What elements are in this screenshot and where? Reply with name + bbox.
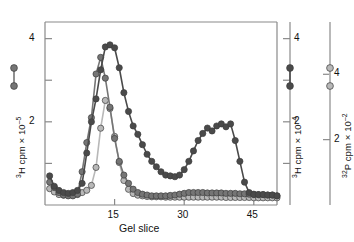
right-axis-title: 32P cpm × 10–2 bbox=[342, 113, 353, 178]
data-point bbox=[93, 96, 99, 102]
data-point bbox=[112, 45, 118, 51]
data-point bbox=[200, 130, 206, 136]
data-point bbox=[125, 180, 131, 186]
data-point bbox=[102, 97, 108, 103]
legend-marker-right bbox=[327, 65, 334, 90]
middle-axis-isotope: 3 bbox=[291, 174, 298, 178]
data-point bbox=[74, 187, 80, 193]
middle-axis-text: H cpm × 10 bbox=[292, 124, 303, 174]
data-point bbox=[130, 123, 136, 129]
legend-marker-left bbox=[11, 65, 18, 90]
data-point bbox=[195, 137, 201, 143]
data-point bbox=[232, 137, 238, 143]
legend-dot bbox=[11, 83, 18, 90]
data-point bbox=[121, 90, 127, 96]
data-point bbox=[125, 108, 131, 114]
data-point bbox=[228, 121, 234, 127]
data-point bbox=[116, 65, 122, 71]
middle-axis-tick-label: 2 bbox=[294, 115, 300, 126]
x-axis-tick-label: 30 bbox=[177, 209, 188, 220]
left-axis-exp: –5 bbox=[15, 117, 22, 125]
legend-marker-middle bbox=[287, 65, 294, 90]
data-point bbox=[93, 164, 99, 170]
left-axis-isotope: 3 bbox=[15, 174, 22, 178]
left-axis-tick-label: 4 bbox=[29, 32, 35, 43]
data-point bbox=[84, 187, 90, 193]
legend-dot bbox=[287, 65, 294, 72]
data-point bbox=[84, 150, 90, 156]
legend-dot bbox=[11, 65, 18, 72]
data-point bbox=[176, 172, 182, 178]
data-point bbox=[88, 182, 94, 188]
left-axis-text: H cpm × 10 bbox=[16, 124, 27, 174]
data-point bbox=[88, 119, 94, 125]
data-point bbox=[112, 135, 118, 141]
data-point bbox=[102, 75, 108, 81]
data-point bbox=[190, 148, 196, 154]
legend-dot bbox=[327, 83, 334, 90]
plot-frame bbox=[45, 22, 277, 205]
right-axis-exp: –2 bbox=[341, 113, 348, 121]
data-point bbox=[186, 158, 192, 164]
data-point bbox=[116, 158, 122, 164]
right-axis-tick-label: 2 bbox=[334, 133, 340, 144]
data-point bbox=[241, 179, 247, 185]
data-point bbox=[47, 173, 53, 179]
legend-dot bbox=[287, 83, 294, 90]
data-point bbox=[237, 158, 243, 164]
legend-dot bbox=[327, 65, 334, 72]
x-axis-label: Gel slice bbox=[119, 222, 159, 234]
right-axis-text: P cpm × 10 bbox=[342, 121, 353, 170]
middle-axis-tick-label: 4 bbox=[294, 32, 300, 43]
data-point bbox=[107, 104, 113, 110]
data-point bbox=[181, 167, 187, 173]
data-point bbox=[209, 128, 215, 134]
data-point bbox=[274, 193, 280, 199]
data-point bbox=[139, 142, 145, 148]
right-axis-tick-label: 4 bbox=[334, 67, 340, 78]
data-point bbox=[98, 125, 104, 131]
x-axis-tick-label: 15 bbox=[108, 209, 119, 220]
left-axis-title: 3H cpm × 10–5 bbox=[16, 117, 27, 179]
right-axis-isotope: 32 bbox=[341, 170, 348, 178]
data-point bbox=[121, 172, 127, 178]
data-point bbox=[153, 164, 159, 170]
left-axis-tick-label: 2 bbox=[29, 115, 35, 126]
data-point bbox=[79, 180, 85, 186]
data-point bbox=[144, 151, 150, 157]
data-point bbox=[98, 67, 104, 73]
x-axis-tick-label: 45 bbox=[247, 209, 258, 220]
data-point bbox=[149, 158, 155, 164]
data-point bbox=[135, 131, 141, 137]
figure-root: 3H cpm × 10–5 3H cpm × 10–4 32P cpm × 10… bbox=[0, 0, 354, 242]
